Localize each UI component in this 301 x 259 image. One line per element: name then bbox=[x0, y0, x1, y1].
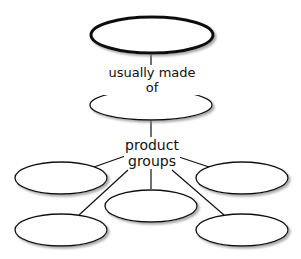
concept-map-canvas bbox=[0, 0, 301, 259]
leaf-node-right-top bbox=[196, 162, 288, 194]
link-label-product-groups: product groups bbox=[124, 137, 180, 169]
root-node bbox=[91, 17, 213, 53]
leaf-node-left-bottom bbox=[15, 214, 107, 246]
leaf-node-right-bottom bbox=[196, 214, 288, 246]
leaf-node-center bbox=[105, 190, 197, 222]
link-label-line-2: groups bbox=[124, 153, 180, 169]
leaf-node-left-top bbox=[15, 162, 107, 194]
link-label-line-1: product bbox=[124, 137, 180, 153]
link-label-usually-made-of: usually made of bbox=[104, 65, 200, 95]
